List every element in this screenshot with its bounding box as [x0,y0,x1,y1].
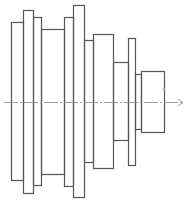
shaft-segment-3 [34,18,42,186]
shaft-segment-10 [129,39,136,166]
shaft-segment-11 [136,75,142,130]
shaft-segment-2 [24,11,34,194]
shaft-segment-5 [65,18,74,187]
shaft-segment-1 [12,23,24,181]
shaft-segment-7 [85,41,94,163]
shaft-segment-6 [74,6,85,198]
shaft-diagram [0,0,189,205]
shaft-segment-12 [142,72,165,133]
shaft-segment-4 [42,30,65,175]
shaft-segment-9 [114,63,129,141]
shaft-segment-8 [94,35,114,169]
shaft-segments [12,6,165,198]
